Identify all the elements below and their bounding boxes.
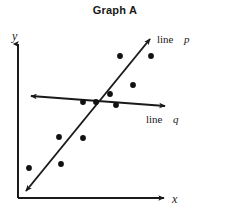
scatter-plot: y x line p line q — [0, 0, 230, 220]
line-q: line q — [31, 96, 179, 125]
line-p-label-name: p — [183, 33, 190, 45]
scatter-point — [26, 165, 32, 171]
x-axis: x — [18, 192, 178, 206]
line-q-label-name: q — [173, 113, 179, 125]
x-axis-label: x — [171, 192, 178, 206]
scatter-point — [56, 134, 62, 140]
line-p-segment — [26, 39, 150, 191]
scatter-point — [80, 99, 86, 105]
scatter-point — [130, 82, 136, 88]
line-q-label-prefix: line — [146, 113, 163, 125]
scatter-point — [93, 99, 99, 105]
scatter-point — [117, 53, 123, 59]
scatter-point — [107, 91, 113, 97]
scatter-point — [148, 53, 154, 59]
graph-screenshot: Graph A y x line p — [0, 0, 230, 220]
scatter-point — [80, 135, 86, 141]
scatter-point — [58, 161, 64, 167]
line-p-label-prefix: line — [157, 33, 174, 45]
y-axis-label: y — [11, 29, 18, 43]
y-axis: y — [11, 29, 18, 198]
scatter-point — [113, 102, 119, 108]
line-p: line p — [26, 33, 190, 191]
